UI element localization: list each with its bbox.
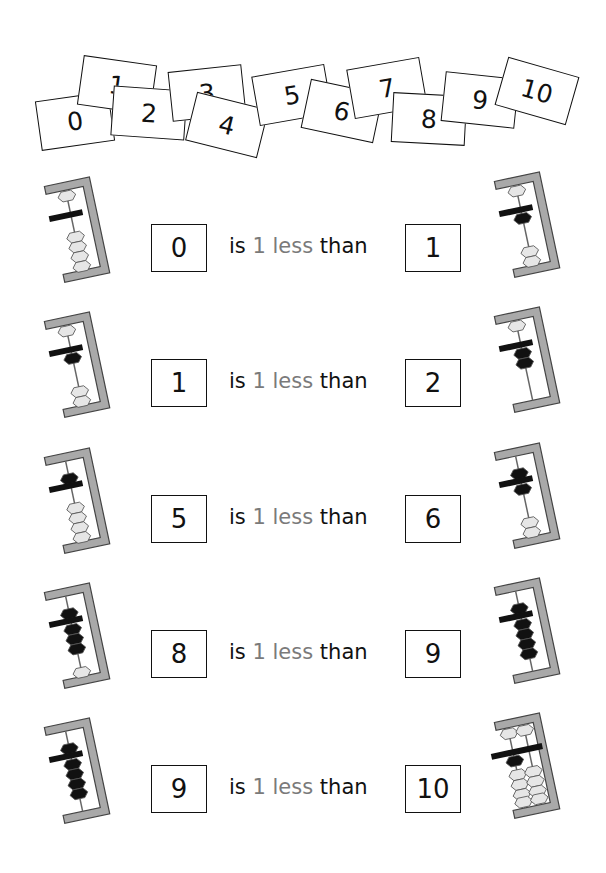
left-number-box: 9 xyxy=(151,765,207,813)
abacus-right-icon xyxy=(490,575,570,685)
comparison-phrase: is 1 less than xyxy=(229,234,368,258)
abacus-left-icon xyxy=(40,174,120,284)
phrase-amount: 1 less xyxy=(252,234,313,258)
comparison-phrase: is 1 less than xyxy=(229,775,368,799)
abacus-right-icon xyxy=(490,440,570,550)
phrase-is: is xyxy=(229,775,246,799)
phrase-amount: 1 less xyxy=(252,775,313,799)
phrase-amount: 1 less xyxy=(252,505,313,529)
abacus-left-icon xyxy=(40,715,120,825)
right-number-box: 6 xyxy=(405,495,461,543)
left-number-box: 1 xyxy=(151,359,207,407)
comparison-phrase: is 1 less than xyxy=(229,640,368,664)
right-number-box: 10 xyxy=(405,765,461,813)
phrase-is: is xyxy=(229,369,246,393)
phrase-is: is xyxy=(229,640,246,664)
phrase-is: is xyxy=(229,505,246,529)
left-number-box: 0 xyxy=(151,224,207,272)
abacus-right-icon xyxy=(490,169,570,279)
phrase-than: than xyxy=(320,369,368,393)
phrase-than: than xyxy=(320,775,368,799)
comparison-phrase: is 1 less than xyxy=(229,505,368,529)
phrase-than: than xyxy=(320,505,368,529)
abacus-right-icon xyxy=(490,304,570,414)
phrase-amount: 1 less xyxy=(252,640,313,664)
comparison-phrase: is 1 less than xyxy=(229,369,368,393)
abacus-right-icon xyxy=(490,710,570,820)
left-number-box: 5 xyxy=(151,495,207,543)
abacus-left-icon xyxy=(40,445,120,555)
abacus-left-icon xyxy=(40,309,120,419)
phrase-than: than xyxy=(320,640,368,664)
phrase-amount: 1 less xyxy=(252,369,313,393)
right-number-box: 9 xyxy=(405,630,461,678)
abacus-left-icon xyxy=(40,580,120,690)
right-number-box: 2 xyxy=(405,359,461,407)
left-number-box: 8 xyxy=(151,630,207,678)
right-number-box: 1 xyxy=(405,224,461,272)
phrase-is: is xyxy=(229,234,246,258)
phrase-than: than xyxy=(320,234,368,258)
